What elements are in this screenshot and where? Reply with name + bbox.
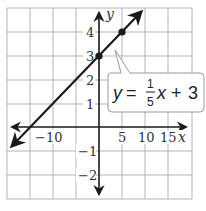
y-tick-4: 4 bbox=[86, 25, 94, 40]
y-tick-neg1: −1 bbox=[78, 144, 97, 159]
fraction-denominator: 5 bbox=[147, 95, 154, 109]
x-tick-neg10: −10 bbox=[35, 130, 62, 145]
x-tick-10: 10 bbox=[138, 130, 155, 145]
y-tick-1: 1 bbox=[86, 97, 94, 112]
point-0-3 bbox=[95, 52, 102, 59]
y-tick-2: 2 bbox=[86, 73, 94, 88]
equation-variable: x bbox=[156, 83, 167, 103]
x-tick-15: 15 bbox=[160, 130, 177, 145]
fraction-numerator: 1 bbox=[147, 77, 154, 91]
equation-lhs: y bbox=[111, 83, 123, 103]
coordinate-graph: 4 3 2 1 −1 −2 −10 5 10 15 x y y = 1 5 x … bbox=[0, 0, 206, 211]
point-5-4 bbox=[118, 28, 125, 35]
equation-plus: + bbox=[171, 83, 182, 103]
equation-constant: 3 bbox=[188, 83, 198, 103]
equation-equals: = bbox=[126, 83, 137, 103]
y-tick-neg2: −2 bbox=[78, 168, 97, 183]
y-axis-label: y bbox=[105, 6, 115, 22]
x-axis-label: x bbox=[178, 129, 186, 145]
x-tick-5: 5 bbox=[118, 130, 126, 145]
